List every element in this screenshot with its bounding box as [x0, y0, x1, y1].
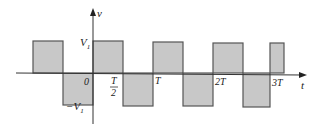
v1-label: V1 [80, 36, 90, 51]
two-period-label: 2T [215, 76, 227, 87]
half-period-num: T [111, 75, 118, 86]
origin-label: 0 [84, 76, 89, 87]
v-axis-arrow-icon [90, 8, 96, 16]
half-period-den: 2 [111, 87, 116, 98]
t-axis-label: t [301, 79, 305, 91]
three-period-label: 3T [271, 77, 284, 88]
t-axis-arrow-icon [299, 72, 307, 78]
v-axis-label: v [97, 7, 102, 19]
period-label: T [155, 75, 162, 86]
square-wave-diagram: v t V1 −V1 0 T 2 T 2T 3T [0, 0, 319, 128]
